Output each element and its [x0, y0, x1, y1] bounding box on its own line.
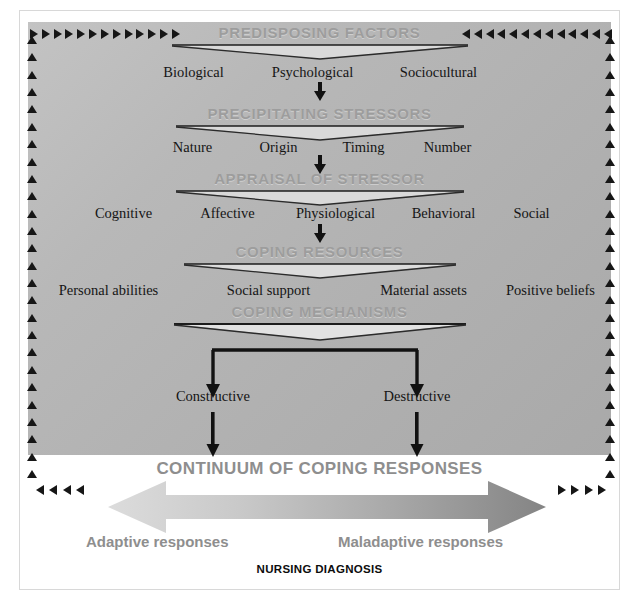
- continuum-section: CONTINUUM OF COPING RESPONSES Adaptive r…: [28, 455, 611, 555]
- options-coping-resources: Personal abilities Social support Materi…: [0, 282, 639, 299]
- option-item: Timing: [322, 139, 406, 156]
- triangle-up-icon: [27, 435, 37, 443]
- arrow-down-icon: [410, 412, 424, 458]
- option-item: Affective: [176, 205, 280, 222]
- option-item: Sociocultural: [377, 64, 501, 81]
- stage-title: COPING MECHANISMS: [0, 303, 639, 321]
- nursing-diagnosis-label: NURSING DIAGNOSIS: [0, 563, 639, 575]
- double-headed-arrow-icon: [108, 481, 546, 533]
- option-item: Origin: [236, 139, 322, 156]
- option-item: Personal abilities: [33, 282, 185, 299]
- option-item: Social: [496, 205, 568, 222]
- funnel-shape: [182, 262, 458, 279]
- triangle-up-icon: [605, 348, 615, 356]
- triangle-up-icon: [605, 227, 615, 235]
- diagram-canvas: PREDISPOSING FACTORS Biological Psycholo…: [0, 0, 639, 605]
- triangle-up-icon: [27, 418, 37, 426]
- option-item: Behavioral: [392, 205, 496, 222]
- stage-appraisal-of-stressor: APPRAISAL OF STRESSOR: [0, 170, 639, 206]
- triangle-up-icon: [27, 366, 37, 374]
- triangle-up-icon: [27, 383, 37, 391]
- option-item: Biological: [139, 64, 249, 81]
- option-item: Physiological: [280, 205, 392, 222]
- stage-title: APPRAISAL OF STRESSOR: [0, 170, 639, 188]
- stage-title: PREDISPOSING FACTORS: [0, 24, 639, 42]
- triangle-up-icon: [27, 401, 37, 409]
- triangle-up-icon: [27, 88, 37, 96]
- option-item: Nature: [150, 139, 236, 156]
- triangle-up-icon: [605, 418, 615, 426]
- options-appraisal: Cognitive Affective Physiological Behavi…: [0, 205, 639, 222]
- outcome-destructive: Destructive: [337, 388, 497, 405]
- funnel-shape: [172, 322, 468, 341]
- option-item: Social support: [185, 282, 353, 299]
- stage-precipitating-stressors: PRECIPITATING STRESSORS: [0, 105, 639, 141]
- options-precipitating: Nature Origin Timing Number: [0, 139, 639, 156]
- triangle-up-icon: [605, 88, 615, 96]
- option-item: Material assets: [353, 282, 495, 299]
- triangle-up-icon: [605, 435, 615, 443]
- option-item: Number: [406, 139, 490, 156]
- arrow-down-icon: [313, 224, 327, 244]
- continuum-title: CONTINUUM OF COPING RESPONSES: [28, 459, 611, 479]
- outcome-constructive: Constructive: [133, 388, 293, 405]
- funnel-shape: [174, 189, 466, 206]
- stage-predisposing-factors: PREDISPOSING FACTORS: [0, 24, 639, 60]
- funnel-shape: [170, 43, 470, 60]
- triangle-up-icon: [605, 383, 615, 391]
- adaptive-responses-label: Adaptive responses: [86, 533, 229, 550]
- options-predisposing: Biological Psychological Sociocultural: [0, 64, 639, 81]
- arrow-down-icon: [313, 82, 327, 102]
- option-item: Cognitive: [72, 205, 176, 222]
- triangle-up-icon: [27, 158, 37, 166]
- maladaptive-responses-label: Maladaptive responses: [338, 533, 503, 550]
- stage-coping-resources: COPING RESOURCES: [0, 243, 639, 279]
- triangle-up-icon: [27, 227, 37, 235]
- triangle-up-icon: [605, 158, 615, 166]
- triangle-up-icon: [605, 366, 615, 374]
- triangle-up-icon: [27, 348, 37, 356]
- option-item: Psychological: [249, 64, 377, 81]
- triangle-up-icon: [605, 401, 615, 409]
- arrow-down-icon: [206, 412, 220, 458]
- option-item: Positive beliefs: [495, 282, 607, 299]
- stage-coping-mechanisms: COPING MECHANISMS: [0, 303, 639, 341]
- stage-title: PRECIPITATING STRESSORS: [0, 105, 639, 123]
- stage-title: COPING RESOURCES: [0, 243, 639, 261]
